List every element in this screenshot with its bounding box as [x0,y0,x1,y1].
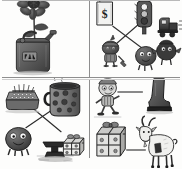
train-motion-lines [178,21,182,29]
price-tag: $ [97,0,113,25]
boot [146,79,173,114]
price-tag-dollar-symbol: $ [102,7,108,21]
knight-creature [102,35,126,67]
frame-top-rule [2,0,180,1]
round-creature [6,128,32,157]
panel-bottom-right: Cartoon figure, boot, gift box and goat [91,78,182,169]
worksheet-sheet: Gas can with flower [0,0,182,169]
divider-vertical-top [89,1,90,77]
typewriter [5,84,40,113]
traffic-light [135,1,152,34]
mug [45,78,80,116]
divider-vertical-bottom [89,80,90,158]
flower-stem [34,9,35,41]
goat [136,116,177,168]
train [158,18,182,37]
panel-bottom-left: Typewriter, mug, anvil and gift box [0,78,91,169]
gift-box [63,135,83,155]
cartoon-figure [94,79,121,117]
gift-box [97,122,125,156]
panel-top-left: Gas can with flower [0,0,91,78]
panel-grid: Gas can with flower [0,0,182,169]
gift-box-bow [103,122,119,127]
panel-top-right: Price tag, traffic light, train and crea… [91,0,182,78]
bird-creature [152,40,181,65]
divider-horizontal [2,77,180,78]
flower-leaf [24,24,49,37]
